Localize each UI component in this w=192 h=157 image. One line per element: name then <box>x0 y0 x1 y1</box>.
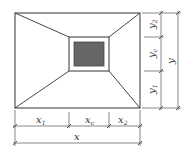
label-x2: x2 <box>118 114 128 126</box>
label-y1: y1 <box>146 85 158 95</box>
diagonal-bottom-left <box>15 71 69 108</box>
diagonal-top-right <box>109 13 140 37</box>
label-y: y <box>165 58 176 65</box>
label-x1: x1 <box>36 114 45 126</box>
label-x: x <box>74 131 80 142</box>
footing-plan-diagram: x1 xc x2 x y2 yc y1 y <box>0 0 192 157</box>
diagonal-bottom-right <box>109 71 140 108</box>
label-xc: xc <box>85 114 95 126</box>
shaded-core <box>74 42 104 66</box>
label-yc: yc <box>146 48 158 59</box>
diagonal-top-left <box>15 13 69 37</box>
label-y2: y2 <box>146 19 158 30</box>
